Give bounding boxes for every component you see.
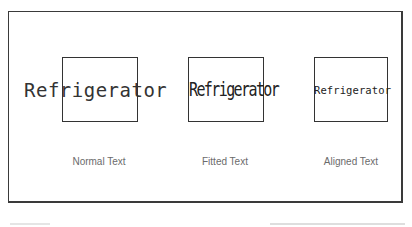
cutoff-text-fragment [10, 223, 50, 225]
aligned-text-sample: Refrigerator [314, 85, 391, 96]
normal-text-sample: Refrigerator [24, 81, 167, 100]
cutoff-text-fragment [270, 223, 405, 225]
normal-text-caption: Normal Text [49, 156, 149, 167]
fitted-text-sample: Refrigerator [189, 80, 278, 100]
fitted-text-caption: Fitted Text [175, 156, 275, 167]
aligned-text-caption: Aligned Text [301, 156, 401, 167]
